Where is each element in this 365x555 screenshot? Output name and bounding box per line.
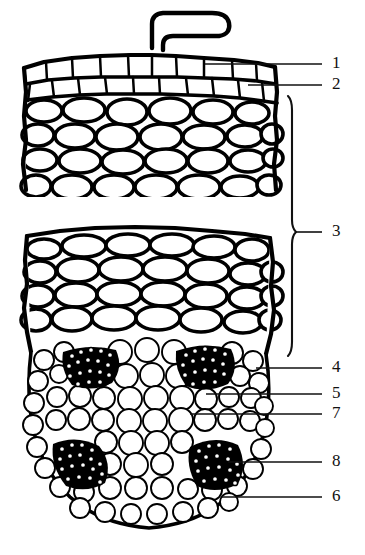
- label-number-1: 1: [332, 53, 341, 72]
- break-gap: [0, 197, 288, 224]
- root-hair: [152, 13, 229, 50]
- label-number-5: 5: [332, 383, 341, 402]
- cortex-lower: [21, 234, 283, 354]
- lower-tissue-block: [21, 227, 283, 528]
- upper-tissue-block: [0, 55, 288, 224]
- label-number-8: 8: [332, 451, 341, 470]
- xylem-patch-lower-right: [189, 440, 243, 490]
- label-number-6: 6: [332, 486, 341, 505]
- cortex-upper: [21, 67, 283, 199]
- figure-container: 1 2 3 4 5 7 8 6: [0, 0, 365, 555]
- label-number-3: 3: [332, 221, 341, 240]
- cross-section-diagram: 1 2 3 4 5 7 8 6: [0, 0, 365, 555]
- phloem-patch-upper-right: [176, 345, 235, 389]
- label-number-7: 7: [332, 403, 341, 422]
- bracket-for-label-3: [288, 96, 296, 356]
- label-number-4: 4: [332, 357, 341, 376]
- label-numbers: 1 2 3 4 5 7 8 6: [332, 53, 341, 505]
- label-number-2: 2: [332, 74, 341, 93]
- phloem-patch-upper-left: [62, 347, 119, 389]
